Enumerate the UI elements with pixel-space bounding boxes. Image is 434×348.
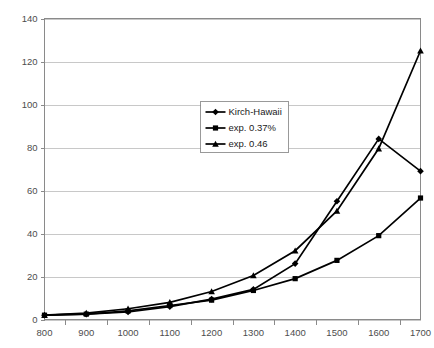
x-tick-label: 1300	[243, 327, 264, 338]
y-tick-label: 140	[22, 13, 38, 24]
y-tick-label: 60	[27, 185, 38, 196]
x-tick-label: 1500	[326, 327, 347, 338]
legend-item-label: Kirch-Hawaii	[229, 106, 282, 117]
data-point-marker	[334, 258, 339, 263]
legend-marker-square-icon	[213, 125, 218, 130]
y-tick-label: 100	[22, 99, 38, 110]
chart-background	[0, 0, 434, 348]
x-tick-label: 1700	[410, 327, 431, 338]
y-tick-label: 20	[27, 271, 38, 282]
x-tick-label: 1400	[285, 327, 306, 338]
y-tick-label: 120	[22, 56, 38, 67]
legend-item-label: exp. 0.37%	[229, 122, 277, 133]
data-point-marker	[376, 233, 381, 238]
y-tick-label: 80	[27, 142, 38, 153]
x-tick-label: 1100	[160, 327, 180, 338]
x-tick-label: 1000	[117, 327, 138, 338]
data-point-marker	[293, 276, 298, 281]
data-point-marker	[209, 298, 214, 303]
x-tick-label: 1200	[201, 327, 222, 338]
chart-legend: Kirch-Hawaiiexp. 0.37%exp. 0.46	[201, 102, 289, 153]
chart-container: 020406080100120140 800900100011001200130…	[0, 0, 434, 348]
x-tick-label: 900	[78, 327, 94, 338]
data-point-marker	[251, 288, 256, 293]
x-tick-label: 1600	[368, 327, 389, 338]
x-tick-label: 800	[37, 327, 53, 338]
legend-item-label: exp. 0.46	[229, 138, 268, 149]
data-point-marker	[418, 195, 423, 200]
y-tick-label: 40	[27, 228, 38, 239]
line-chart: 020406080100120140 800900100011001200130…	[0, 0, 434, 348]
y-tick-label: 0	[32, 314, 37, 325]
